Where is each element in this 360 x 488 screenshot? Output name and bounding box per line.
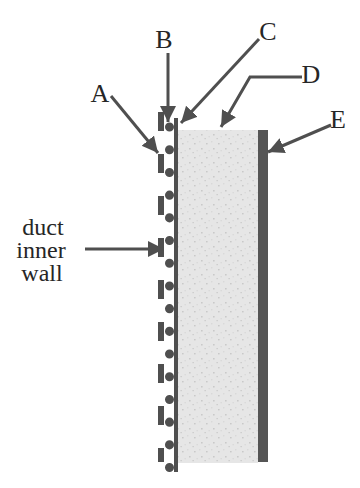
dark-outer-bar <box>258 130 268 462</box>
callout-label-a: A <box>91 79 110 108</box>
duct-inner-wall-label-line-3: wall <box>21 260 63 286</box>
callout-arrow-e <box>268 125 331 152</box>
stippled-layer <box>178 130 258 463</box>
figure-canvas: A B C D E duct inner wall <box>0 0 360 488</box>
callout-arrow-a <box>111 96 158 153</box>
callout-arrow-d <box>221 77 302 127</box>
callout-label-c: C <box>259 17 276 46</box>
callout-label-d: D <box>302 60 321 89</box>
callout-label-b: B <box>155 25 172 54</box>
callout-label-e: E <box>330 105 346 134</box>
duct-wall-layers-figure: A B C D E duct inner wall <box>0 0 360 488</box>
